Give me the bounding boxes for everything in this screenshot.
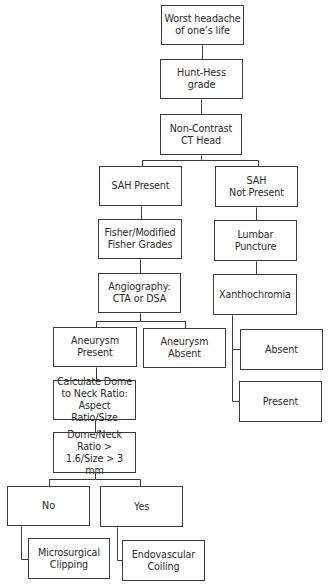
node-hunt-hess: Hunt-Hess grade — [160, 59, 243, 99]
node-sah-not-present: SAH Not Present — [215, 166, 298, 207]
node-aneurysm-present: Aneurysm Present — [53, 327, 137, 367]
node-ct-head: Non-Contrast CT Head — [160, 114, 242, 155]
node-yes: Yes — [100, 486, 183, 527]
node-xantho-present: Present — [239, 381, 322, 422]
node-no: No — [7, 486, 90, 526]
node-angiography: Angiography: CTA or DSA — [98, 273, 181, 313]
node-xanthochromia: Xanthochromia — [213, 274, 297, 315]
node-calculate-ratio: Calculate Dome to Neck Ratio: Aspect Rat… — [53, 380, 136, 420]
node-microsurgical: Microsurgical Clipping — [28, 538, 110, 579]
node-worst-headache: Worst headache of one’s life — [161, 5, 244, 45]
node-sah-present: SAH Present — [99, 166, 182, 206]
node-endovascular: Endovascular Coiling — [122, 540, 205, 581]
node-fisher: Fisher/Modified Fisher Grades — [98, 219, 182, 259]
node-xantho-absent: Absent — [240, 329, 323, 370]
connector-line — [143, 156, 202, 167]
node-aneurysm-absent: Aneurysm Absent — [143, 328, 226, 368]
node-dome-neck: Dome/Neck Ratio > 1.6/Size > 3 mm — [53, 432, 136, 473]
node-lumbar-puncture: Lumbar Puncture — [214, 220, 297, 261]
connector-line — [97, 314, 141, 328]
